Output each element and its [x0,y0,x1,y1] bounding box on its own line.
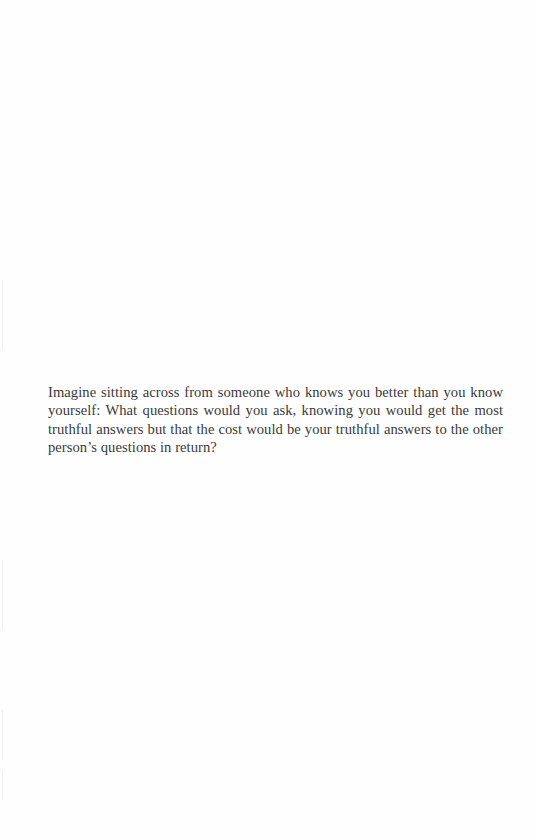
page-edge-mark [2,280,3,350]
body-paragraph: Imagine sitting across from someone who … [48,383,503,457]
document-page: Imagine sitting across from someone who … [0,0,537,838]
page-edge-mark [2,770,3,800]
page-edge-mark [2,710,3,760]
page-edge-mark [2,560,3,630]
